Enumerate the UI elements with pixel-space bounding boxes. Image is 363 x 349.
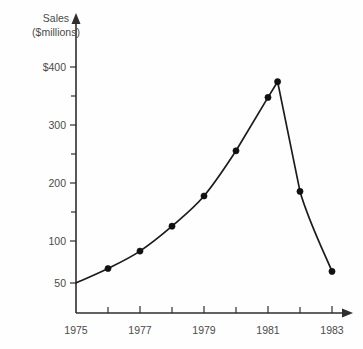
sales-series-markers bbox=[105, 79, 335, 275]
data-point-1977 bbox=[137, 248, 143, 254]
x-tick-label-1981: 1981 bbox=[256, 324, 280, 336]
y-axis-ticks bbox=[70, 67, 76, 283]
y-tick-label-200: 200 bbox=[48, 177, 66, 189]
y-tick-label-400: $400 bbox=[43, 61, 67, 73]
sales-line-chart: Sales ($millions) $400 300 200 100 50 19… bbox=[0, 0, 363, 349]
sales-series-line bbox=[76, 82, 332, 283]
y-axis-title-line2: ($millions) bbox=[32, 26, 80, 38]
y-axis bbox=[72, 13, 81, 313]
data-point-1981 bbox=[265, 94, 271, 100]
data-point-1979 bbox=[201, 193, 207, 199]
data-point-1976 bbox=[105, 265, 111, 271]
data-point-1981+ bbox=[275, 79, 281, 85]
data-point-1982 bbox=[297, 188, 303, 194]
x-tick-label-1977: 1977 bbox=[128, 324, 152, 336]
chart-canvas: Sales ($millions) $400 300 200 100 50 19… bbox=[0, 0, 363, 349]
data-point-1978 bbox=[169, 223, 175, 229]
x-tick-label-1983: 1983 bbox=[320, 324, 344, 336]
y-tick-label-300: 300 bbox=[48, 119, 66, 131]
x-axis bbox=[76, 309, 353, 318]
y-tick-label-100: 100 bbox=[48, 235, 66, 247]
x-tick-label-1979: 1979 bbox=[192, 324, 216, 336]
x-axis-ticks bbox=[108, 306, 332, 313]
y-tick-label-50: 50 bbox=[54, 277, 66, 289]
data-point-1980 bbox=[233, 148, 239, 154]
x-axis-arrow-icon bbox=[342, 309, 353, 318]
y-axis-title-line1: Sales bbox=[43, 12, 69, 24]
x-tick-label-1975: 1975 bbox=[64, 324, 88, 336]
data-point-1983 bbox=[329, 268, 335, 274]
y-axis-arrow-icon bbox=[72, 13, 81, 24]
